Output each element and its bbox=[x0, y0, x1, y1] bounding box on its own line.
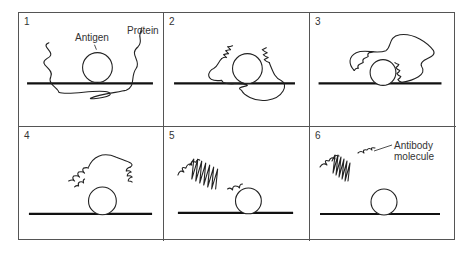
antibody-formation-figure: 1 Antigen Protein 2 bbox=[18, 12, 455, 240]
panel-1-illustration bbox=[19, 13, 163, 126]
panel-6: 6 Antibody molecule bbox=[310, 127, 456, 241]
panel-3: 3 bbox=[310, 13, 456, 127]
panel-1: 1 Antigen Protein bbox=[19, 13, 164, 127]
antigen-sphere bbox=[233, 54, 263, 84]
antigen-sphere bbox=[370, 60, 396, 86]
panel-5-illustration bbox=[164, 127, 309, 241]
panel-3-illustration bbox=[310, 13, 456, 126]
panel-grid: 1 Antigen Protein 2 bbox=[18, 12, 455, 240]
panel-4-illustration bbox=[19, 127, 163, 241]
panel-4: 4 bbox=[19, 127, 164, 241]
panel-5: 5 bbox=[164, 127, 310, 241]
panel-2-illustration bbox=[164, 13, 309, 126]
panel-6-illustration bbox=[310, 127, 456, 241]
antigen-sphere bbox=[83, 53, 113, 83]
panel-2: 2 bbox=[164, 13, 310, 127]
antigen-sphere bbox=[89, 187, 117, 215]
antigen-sphere bbox=[236, 188, 262, 214]
antigen-sphere bbox=[371, 189, 397, 215]
